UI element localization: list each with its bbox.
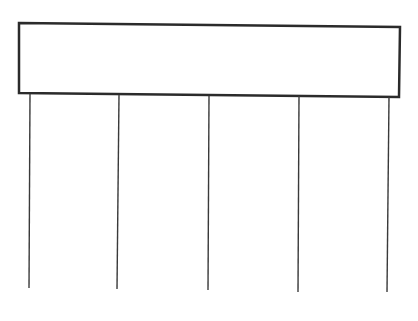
vertical-lines <box>29 94 389 292</box>
vertical-line-2 <box>117 95 119 289</box>
vertical-line-5 <box>387 97 389 292</box>
header-box <box>19 23 400 97</box>
vertical-line-3 <box>208 96 209 290</box>
vertical-line-4 <box>298 96 299 292</box>
diagram-canvas <box>0 0 418 321</box>
vertical-line-1 <box>29 94 30 288</box>
